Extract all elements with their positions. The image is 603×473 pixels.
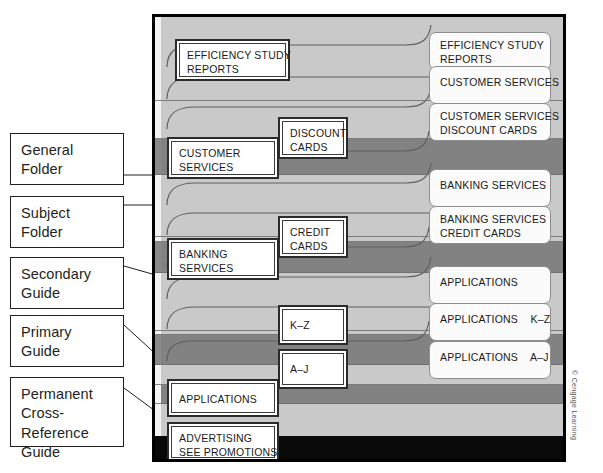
- tab-customer-services[interactable]: CUSTOMER SERVICES: [171, 141, 275, 175]
- folder-tab-line: APPLICATIONS A–J: [440, 351, 550, 365]
- tab-advertising-see-promotions[interactable]: ADVERTISING SEE PROMOTIONS: [171, 426, 275, 458]
- tab-line: CREDIT: [290, 226, 343, 240]
- folder-tab-line: REPORTS: [440, 53, 550, 67]
- tab-efficiency-study-reports[interactable]: EFFICIENCY STUDY REPORTS: [179, 43, 286, 77]
- tab-discount-cards[interactable]: DISCOUNT CARDS: [282, 121, 344, 155]
- copyright-credit: © Cengage Learning: [571, 370, 578, 440]
- tab-line: CARDS: [290, 141, 343, 155]
- folder-tab-applications[interactable]: APPLICATIONS: [429, 266, 551, 304]
- folder-tab-line: CUSTOMER SERVICES: [440, 76, 550, 90]
- tab-line: SEE PROMOTIONS: [179, 446, 274, 460]
- tab-line: REPORTS: [187, 63, 285, 77]
- folder-tab-applications-a-j[interactable]: APPLICATIONS A–J: [429, 341, 551, 379]
- tab-line: APPLICATIONS: [179, 393, 274, 407]
- tab-line: SERVICES: [179, 262, 274, 276]
- folder-tab-line: BANKING SERVICES: [440, 213, 550, 227]
- tab-applications[interactable]: APPLICATIONS: [171, 383, 275, 413]
- folder-tab-efficiency-study-reports[interactable]: EFFICIENCY STUDY REPORTS: [429, 32, 551, 70]
- folder-tab-banking-services[interactable]: BANKING SERVICES: [429, 169, 551, 207]
- tab-line: A–J: [290, 363, 343, 377]
- tab-line: CUSTOMER: [179, 147, 274, 161]
- folder-tab-line: APPLICATIONS: [440, 276, 550, 290]
- tab-line: EFFICIENCY STUDY: [187, 49, 285, 63]
- folder-tab-line: EFFICIENCY STUDY: [440, 39, 550, 53]
- tab-line: ADVERTISING: [179, 432, 274, 446]
- tab-a-j[interactable]: A–J: [282, 353, 344, 385]
- tab-credit-cards[interactable]: CREDIT CARDS: [282, 220, 344, 254]
- folder-tab-customer-services-discount-cards[interactable]: CUSTOMER SERVICES DISCOUNT CARDS: [429, 103, 551, 141]
- folder-tab-banking-services-credit-cards[interactable]: BANKING SERVICES CREDIT CARDS: [429, 206, 551, 244]
- folder-tab-line: CUSTOMER SERVICES: [440, 110, 550, 124]
- tab-k-z[interactable]: K–Z: [282, 309, 344, 341]
- file-drawer-panel: EFFICIENCY STUDY REPORTS CUSTOMER SERVIC…: [152, 14, 566, 462]
- tab-line: DISCOUNT: [290, 127, 343, 141]
- tab-banking-services[interactable]: BANKING SERVICES: [171, 242, 275, 276]
- folder-tab-line: BANKING SERVICES: [440, 179, 550, 193]
- folder-tab-line: DISCOUNT CARDS: [440, 124, 550, 138]
- folder-tab-line: APPLICATIONS K–Z: [440, 313, 550, 327]
- tab-line: SERVICES: [179, 161, 274, 175]
- folder-tab-line: CREDIT CARDS: [440, 227, 550, 241]
- tab-line: CARDS: [290, 240, 343, 254]
- folder-tab-applications-k-z[interactable]: APPLICATIONS K–Z: [429, 303, 551, 341]
- tab-line: BANKING: [179, 248, 274, 262]
- folder-tab-customer-services[interactable]: CUSTOMER SERVICES: [429, 66, 551, 104]
- tab-line: K–Z: [290, 319, 343, 333]
